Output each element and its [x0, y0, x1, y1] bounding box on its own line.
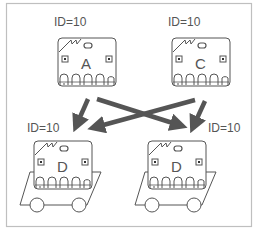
node-c-id-label: ID=10: [168, 15, 201, 29]
node-d-id-label: ID=10: [208, 121, 241, 135]
diagram-canvas: ID=10 A ID=10 C ID=10 D ID=10: [0, 0, 255, 229]
node-a-letter: A: [81, 55, 91, 72]
node-a-id-label: ID=10: [54, 15, 87, 29]
node-b-letter: D: [57, 158, 68, 175]
node-c-letter: C: [195, 55, 206, 72]
node-b-id-label: ID=10: [27, 121, 60, 135]
node-d-letter: D: [171, 158, 182, 175]
